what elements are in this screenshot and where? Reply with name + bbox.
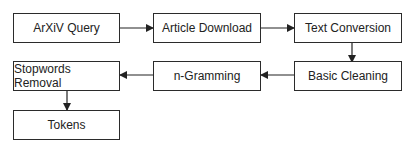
node-arxiv-query: ArXiV Query: [13, 13, 120, 43]
node-stopwords-removal: Stopwords Removal: [13, 61, 120, 91]
node-n-gramming: n-Gramming: [153, 61, 261, 91]
node-basic-cleaning: Basic Cleaning: [294, 61, 402, 91]
node-text-conversion: Text Conversion: [294, 13, 402, 43]
node-article-download: Article Download: [153, 13, 261, 43]
node-tokens: Tokens: [13, 110, 120, 140]
pipeline-diagram: ArXiV Query Article Download Text Conver…: [0, 0, 412, 147]
